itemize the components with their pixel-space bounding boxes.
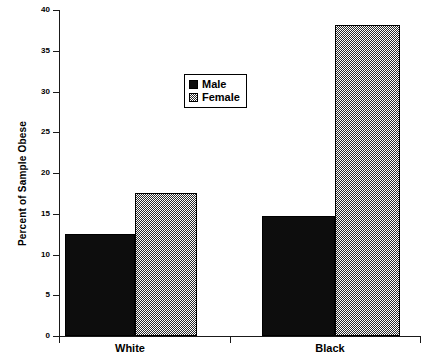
y-axis-tick-mark (53, 132, 60, 133)
y-axis-tick-label: 5 (0, 290, 50, 299)
y-axis-tick: 15 (0, 214, 60, 215)
y-axis-tick: 0 (0, 336, 60, 337)
x-axis-tick-left (59, 336, 60, 343)
legend: Male Female (184, 74, 247, 108)
legend-swatch-male-icon (189, 80, 198, 89)
x-axis-tick-right (420, 336, 421, 343)
y-axis-tick: 25 (0, 132, 60, 133)
legend-swatch-female-icon (189, 93, 198, 102)
legend-label-male: Male (202, 79, 226, 90)
y-axis-tick-mark (53, 295, 60, 296)
legend-label-female: Female (202, 92, 240, 103)
y-axis-tick-mark (53, 92, 60, 93)
legend-item-male: Male (189, 78, 240, 91)
y-axis-tick: 20 (0, 173, 60, 174)
bar-black-female (335, 25, 400, 336)
y-axis-tick-mark (53, 173, 60, 174)
y-axis-tick: 30 (0, 92, 60, 93)
y-axis-tick: 10 (0, 255, 60, 256)
y-axis-tick-label: 15 (0, 209, 50, 218)
x-group-label-black: Black (290, 342, 370, 354)
y-axis-tick-mark (53, 255, 60, 256)
legend-item-female: Female (189, 91, 240, 104)
x-axis-line (59, 336, 421, 337)
bar-black-male (262, 216, 335, 336)
y-axis-title: Percent of Sample Obese (17, 94, 28, 274)
y-axis-tick-mark (53, 51, 60, 52)
y-axis-tick-label: 35 (0, 46, 50, 55)
x-group-label-white: White (90, 342, 170, 354)
y-axis-tick-label: 40 (0, 5, 50, 14)
y-axis-tick: 5 (0, 295, 60, 296)
y-axis-tick-mark (53, 10, 60, 11)
y-axis-tick-label: 30 (0, 87, 50, 96)
y-axis-tick-label: 20 (0, 168, 50, 177)
y-axis-tick-label: 10 (0, 250, 50, 259)
y-axis-tick: 40 (0, 10, 60, 11)
bar-chart: Percent of Sample Obese 0510152025303540… (0, 0, 441, 363)
y-axis-tick-label: 0 (0, 331, 50, 340)
bar-white-male (65, 234, 135, 336)
y-axis-tick-mark (53, 214, 60, 215)
x-axis-tick-middle (230, 336, 231, 343)
y-axis-tick: 35 (0, 51, 60, 52)
y-axis-tick-label: 25 (0, 127, 50, 136)
bar-white-female (135, 193, 197, 336)
